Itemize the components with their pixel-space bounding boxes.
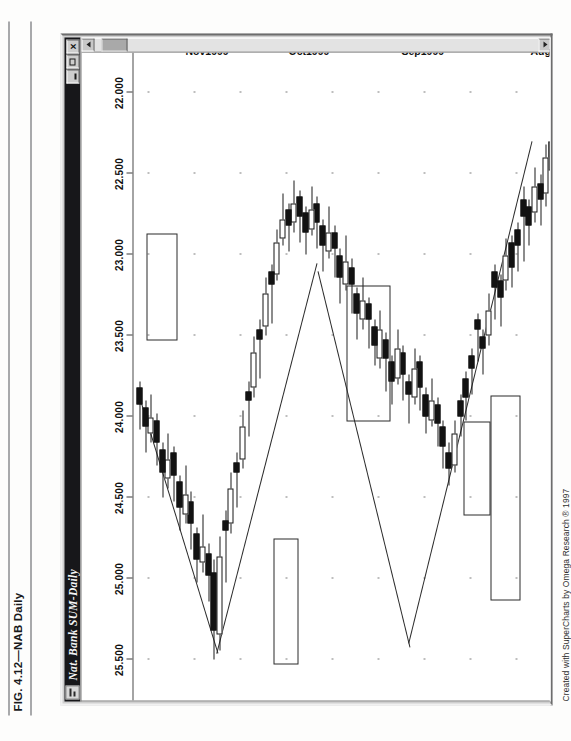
price-tick [126,173,132,174]
candle-body [142,407,148,426]
candle-body [199,546,205,562]
candle-body [285,209,291,225]
caption-rule-bottom [30,21,31,715]
candle-body [308,209,314,228]
grid-dot [147,496,149,498]
price-tick-label: 24.500 [113,482,124,514]
candle-body [227,488,233,524]
grid-dot [239,91,241,93]
grid-dot [285,334,287,336]
grid-dot [285,415,287,417]
scroll-thumb[interactable] [101,38,127,51]
grid-dot [193,172,195,174]
figure-caption-text: FIG. 4.12—NAB Daily [11,592,23,711]
candle-body [256,329,262,339]
minimize-button[interactable] [66,69,79,83]
grid-dot [515,253,517,255]
candle-wick [236,452,237,507]
candle-body [273,242,279,274]
grid-dot [285,496,287,498]
price-tick [126,659,132,660]
grid-dot [331,496,333,498]
candle-body [279,219,285,238]
price-tick-label: 24.000 [113,401,124,433]
candle-body [531,186,537,212]
price-tick [126,254,132,255]
candlestick-plot [133,52,550,700]
grid-dot [515,172,517,174]
chevron-down-icon [543,41,547,47]
price-tick-label: 22.500 [113,158,124,190]
grid-dot [331,172,333,174]
candle-body [451,433,457,465]
grid-dot [239,658,241,660]
grid-dot [377,91,379,93]
candle-wick [259,319,260,377]
scroll-down-arrow[interactable] [538,38,550,51]
candle-body [170,452,176,475]
candle-body [153,420,159,443]
grid-dot [239,253,241,255]
grid-dot [285,253,287,255]
candle-body [210,572,216,630]
window-title-bar[interactable]: Nat. Bank SUM-Daily × [64,37,80,701]
candle-body [434,404,440,423]
grid-dot [377,577,379,579]
close-button[interactable]: × [66,39,79,53]
candle-body [250,352,256,388]
candle-body [319,225,325,244]
candle-body [187,501,193,524]
grid-dot [377,253,379,255]
grid-dot [239,577,241,579]
grid-dot [331,577,333,579]
grid-dot [193,658,195,660]
candle-body [542,157,548,193]
maximize-button[interactable] [66,54,79,68]
grid-dot [147,577,149,579]
grid-dot [239,415,241,417]
candle-body [222,520,228,530]
candle-body [313,203,319,222]
candle-body [205,553,211,576]
candle-body [462,378,468,397]
grid-dot [285,91,287,93]
price-tick-label: 25.500 [113,644,124,676]
candle-body [457,400,463,416]
candle-body [159,449,165,472]
grid-dot [285,172,287,174]
candle-wick [523,186,524,261]
grid-dot [469,91,471,93]
grid-dot [377,658,379,660]
chart-client-area[interactable]: 25.50025.00024.50024.00023.50023.00022.5… [80,37,550,701]
grid-dot [193,253,195,255]
candle-body [411,368,417,397]
window-title-text: Nat. Bank SUM-Daily [66,569,78,680]
chart-application-window: Nat. Bank SUM-Daily × 25.50025.00024.500… [60,33,552,705]
price-tick [126,335,132,336]
grid-dot [193,91,195,93]
grid-dot [239,496,241,498]
candle-body [525,206,531,225]
scroll-up-arrow[interactable] [81,38,94,51]
grid-dot [469,253,471,255]
grid-dot [469,577,471,579]
candle-body [514,229,520,245]
grid-dot [193,415,195,417]
grid-dot [469,658,471,660]
vertical-scrollbar[interactable] [81,38,550,52]
candle-body [239,426,245,458]
grid-dot [469,172,471,174]
grid-dot [377,172,379,174]
candle-body [485,310,491,336]
price-tick-label: 22.000 [113,77,124,109]
grid-dot [423,91,425,93]
pattern-box-november-2 [490,395,519,599]
grid-dot [331,415,333,417]
price-tick-label: 23.500 [113,320,124,352]
window-controls: × [66,37,79,83]
candle-body [233,462,239,472]
grid-dot [423,658,425,660]
candle-body [416,361,422,387]
caption-rule-top [8,21,9,715]
candle-wick [202,514,203,572]
